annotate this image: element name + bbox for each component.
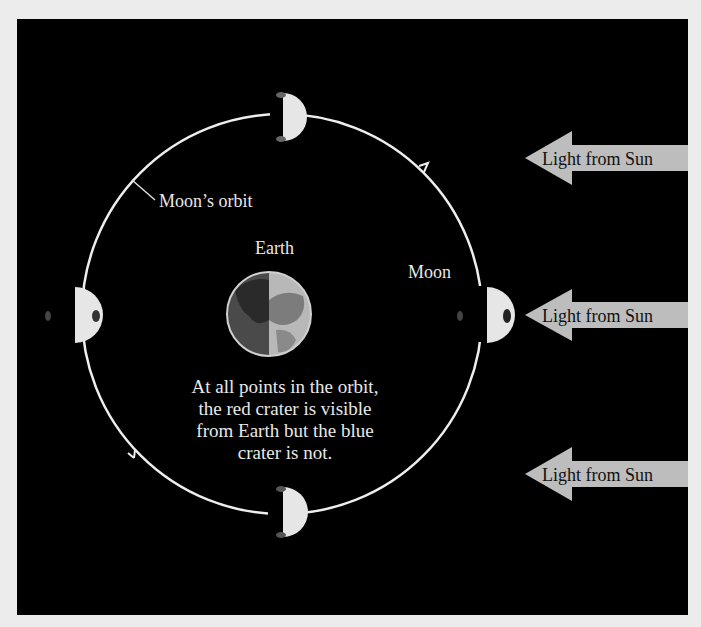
blue-crater [45,311,51,321]
explanation-caption: At all points in the orbit, the red crat… [150,376,420,464]
sunlight-label: Light from Sun [542,306,653,326]
red-crater [92,310,100,322]
sunlight-label: Light from Sun [542,149,653,169]
moon-label: Moon [408,262,451,283]
sunlight-arrow-2: Light from Sun [525,289,688,341]
moon-top [270,92,307,142]
sunlight-arrow-3: Light from Sun [525,447,688,501]
earth-globe [227,272,311,356]
sunlight-arrow-1: Light from Sun [525,131,688,185]
caption-line: At all points in the orbit, [150,376,420,398]
orbit-label: Moon’s orbit [159,191,253,212]
moon-right [457,286,515,343]
blue-crater [457,311,463,321]
caption-line: the red crater is visible [150,398,420,420]
moon-bottom [268,486,308,538]
caption-line: from Earth but the blue [150,420,420,442]
caption-line: crater is not. [150,442,420,464]
orbit-label-pointer [132,180,155,200]
moon-left [45,286,103,343]
blue-crater [276,532,286,538]
earth-label: Earth [255,238,294,259]
orbit-direction-arrow-icon [128,450,135,458]
blue-crater [276,136,286,142]
red-crater [276,92,286,98]
red-crater [503,309,511,323]
red-crater [276,486,286,492]
orbit-diagram: Light from Sun Light from Sun Light from… [0,0,701,627]
sunlight-label: Light from Sun [542,465,653,485]
